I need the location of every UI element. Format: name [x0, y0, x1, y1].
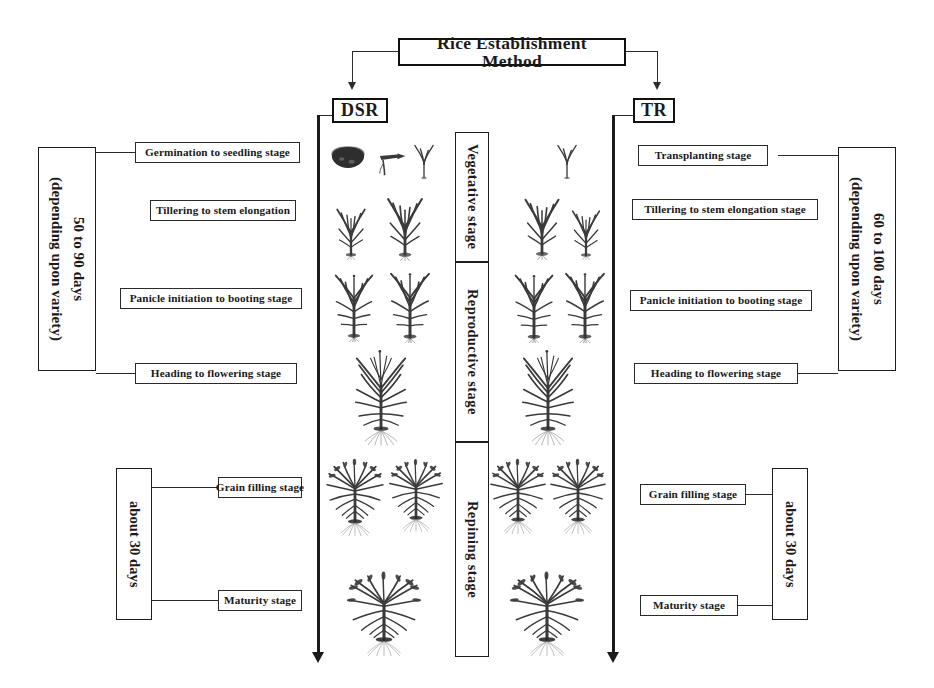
arrowhead-to-dsr — [348, 82, 356, 90]
right-stage-heading: Heading to flowering stage — [634, 363, 798, 384]
connector-left-germination — [96, 152, 136, 153]
plant-dsr-heading — [345, 348, 417, 446]
right-duration-box-bottom: about 30 days — [772, 468, 808, 620]
method-box-tr: TR — [633, 98, 675, 123]
diagram-canvas: Rice Establishment Method DSR TR Vegetat… — [0, 0, 934, 688]
left-stage-grainfilling: Grain filling stage — [218, 477, 302, 498]
dsr-spine-arrowhead — [312, 652, 324, 663]
left-stage-heading-label: Heading to flowering stage — [151, 368, 281, 380]
plant-dsr-grainfill-2 — [385, 455, 447, 533]
connector-title-to-dsr-h — [352, 51, 399, 52]
left-stage-panicle: Panicle initiation to booting stage — [120, 288, 302, 309]
right-stage-tillering-label: Tillering to stem elongation stage — [644, 204, 806, 216]
right-stage-panicle-label: Panicle initiation to booting stage — [640, 295, 803, 307]
tr-spine-elbow — [613, 115, 634, 116]
right-stage-maturity: Maturity stage — [640, 595, 738, 616]
plant-tr-heading — [512, 348, 584, 446]
connector-right-grainfilling — [746, 494, 772, 495]
left-duration-box-bottom: about 30 days — [116, 468, 152, 620]
plant-tr-seedling — [555, 142, 579, 180]
right-stage-grainfilling-label: Grain filling stage — [649, 489, 737, 501]
connector-right-heading — [798, 373, 838, 374]
phase-box-vegetative: Vegetative stage — [455, 132, 489, 262]
left-stage-tillering-label: Tillering to stem elongation — [156, 205, 290, 217]
connector-right-maturity — [738, 605, 772, 606]
left-stage-maturity-label: Maturity stage — [224, 595, 296, 607]
plant-dsr-grainfill-1 — [322, 455, 388, 537]
connector-title-to-dsr-v — [352, 51, 353, 83]
connector-title-to-tr-v — [657, 51, 658, 83]
connector-left-grainfilling — [152, 487, 220, 488]
dsr-spine — [317, 115, 320, 655]
connector-left-heading — [96, 373, 136, 374]
plant-dsr-booting-1 — [328, 267, 380, 342]
left-stage-germination-label: Germination to seedling stage — [145, 147, 290, 159]
plant-dsr-seedling — [412, 142, 436, 180]
dsr-spine-elbow — [318, 115, 333, 116]
left-stage-tillering: Tillering to stem elongation — [150, 200, 296, 221]
connector-title-to-tr-h — [626, 51, 658, 52]
left-duration-label-top: 50 to 90 days (depending upon variety) — [45, 177, 89, 341]
right-duration-label-bottom: about 30 days — [780, 501, 801, 588]
plant-tr-mature — [508, 562, 586, 662]
phase-label-reproductive: Reproductive stage — [464, 289, 479, 415]
plant-tr-booting-2 — [558, 265, 612, 343]
left-stage-panicle-label: Panicle initiation to booting stage — [130, 293, 293, 305]
plant-dsr-mature — [345, 562, 423, 662]
method-label-dsr: DSR — [341, 101, 379, 120]
right-stage-tillering: Tillering to stem elongation stage — [632, 199, 818, 220]
method-box-dsr: DSR — [332, 98, 388, 123]
plant-dsr-tiller-2 — [380, 185, 430, 261]
left-stage-heading: Heading to flowering stage — [135, 363, 297, 384]
phase-label-repining: Repining stage — [464, 501, 479, 598]
left-duration-box-top: 50 to 90 days (depending upon variety) — [38, 147, 96, 371]
connector-right-transplanting — [778, 155, 838, 156]
right-stage-panicle: Panicle initiation to booting stage — [630, 290, 812, 311]
plant-dsr-booting-2 — [383, 265, 437, 343]
plant-dsr-tiller-1 — [330, 198, 372, 260]
right-stage-transplanting-label: Transplanting stage — [655, 150, 752, 162]
connector-left-maturity — [152, 600, 220, 601]
root-title-label: Rice Establishment Method — [406, 34, 618, 71]
tr-spine-arrowhead — [607, 652, 619, 663]
right-stage-maturity-label: Maturity stage — [653, 600, 725, 612]
method-label-tr: TR — [641, 101, 667, 120]
right-duration-label-top: 60 to 100 days (depending upon variety) — [845, 177, 889, 341]
phase-label-vegetative: Vegetative stage — [464, 144, 479, 249]
left-stage-maturity: Maturity stage — [218, 590, 302, 611]
phase-box-reproductive: Reproductive stage — [455, 262, 489, 442]
right-duration-box-top: 60 to 100 days (depending upon variety) — [838, 147, 896, 371]
root-title-box: Rice Establishment Method — [398, 38, 626, 66]
plant-tr-grainfill-1 — [486, 455, 550, 535]
right-stage-heading-label: Heading to flowering stage — [651, 368, 781, 380]
plant-dsr-soaked-seed — [330, 146, 366, 172]
plant-dsr-germinating-seed — [375, 146, 407, 182]
plant-tr-tiller-1 — [518, 186, 566, 260]
phase-box-repining: Repining stage — [455, 442, 489, 657]
left-duration-label-bottom: about 30 days — [124, 501, 145, 588]
right-stage-transplanting: Transplanting stage — [638, 145, 768, 166]
plant-tr-booting-1 — [508, 267, 560, 343]
arrowhead-to-tr — [653, 82, 661, 90]
left-stage-grainfilling-label: Grain filling stage — [216, 482, 304, 494]
plant-tr-tiller-2 — [566, 200, 606, 260]
plant-tr-grainfill-2 — [546, 455, 610, 535]
left-stage-germination: Germination to seedling stage — [135, 142, 300, 163]
right-stage-grainfilling: Grain filling stage — [640, 484, 746, 505]
tr-spine — [612, 115, 615, 655]
